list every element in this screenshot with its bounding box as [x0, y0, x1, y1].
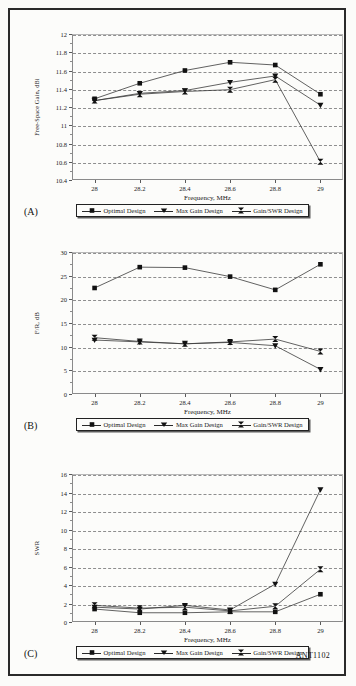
- x-axis-title: Frequency, MHz: [72, 194, 343, 202]
- legend-label: Max Gain Design: [176, 421, 223, 428]
- plot-c: SWR02468101214162828.228.428.628.829Freq…: [10, 454, 348, 676]
- x-tick-mark: [140, 394, 141, 397]
- x-tick-mark: [275, 394, 276, 397]
- legend-marker-triangle-down-icon: [154, 422, 173, 428]
- x-tick-label: 28: [91, 185, 98, 192]
- legend-marker-triangle-down-icon: [154, 650, 173, 656]
- data-point-marker: [137, 265, 142, 270]
- x-axis-title: Frequency, MHz: [72, 408, 343, 416]
- legend-label: Optimal Design: [104, 649, 146, 656]
- x-tick-mark: [185, 394, 186, 397]
- data-point-marker: [273, 63, 278, 68]
- x-tick-mark: [185, 180, 186, 183]
- x-tick-label: 28.4: [179, 399, 190, 406]
- series-line: [95, 490, 321, 610]
- x-tick-mark: [140, 180, 141, 183]
- legend-item[interactable]: Max Gain Design: [154, 649, 222, 656]
- legend-label: Gain/SWR Design: [253, 421, 302, 428]
- series-line: [95, 80, 321, 162]
- legend-marker-square-icon: [82, 422, 101, 428]
- data-point-marker: [317, 566, 323, 572]
- series-line: [95, 264, 321, 290]
- x-tick-mark: [185, 622, 186, 625]
- plot-b: F/R, dB0510152025302828.228.428.628.829F…: [10, 232, 348, 450]
- y-tick-label: 15: [61, 320, 68, 327]
- y-tick-label: 30: [61, 249, 68, 256]
- legend-marker-bowtie-icon: [232, 208, 251, 214]
- data-point-marker: [317, 348, 323, 354]
- data-point-marker: [137, 81, 142, 86]
- x-tick-mark: [230, 180, 231, 183]
- legend-item[interactable]: Max Gain Design: [154, 207, 222, 214]
- legend-item[interactable]: Optimal Design: [82, 207, 145, 214]
- legend-marker-triangle-down-icon: [154, 208, 173, 214]
- y-axis-title: Free-Space Gain, dBi: [33, 78, 40, 135]
- legend-item[interactable]: Optimal Design: [82, 421, 145, 428]
- data-point-marker: [183, 68, 188, 73]
- data-point-marker: [318, 592, 323, 597]
- legend-marker-bowtie-icon: [232, 650, 251, 656]
- y-tick-label: 14: [61, 489, 68, 496]
- x-tick-mark: [320, 394, 321, 397]
- data-point-marker: [273, 288, 278, 293]
- plot-a: Free-Space Gain, dBi10.410.610.81111.211…: [10, 12, 348, 230]
- series-line: [95, 338, 321, 352]
- legend-b[interactable]: Optimal DesignMax Gain DesignGain/SWR De…: [76, 418, 309, 431]
- figure-credit: ANT1102: [296, 651, 330, 660]
- y-tick-label: 16: [61, 471, 68, 478]
- data-point-marker: [183, 265, 188, 270]
- legend-item[interactable]: Gain/SWR Design: [232, 421, 303, 428]
- legend-item[interactable]: Max Gain Design: [154, 421, 222, 428]
- legend-item[interactable]: Optimal Design: [82, 649, 145, 656]
- y-tick-label: 25: [61, 272, 68, 279]
- data-point-marker: [317, 159, 323, 165]
- chart-panel-a: Free-Space Gain, dBi10.410.610.81111.211…: [10, 12, 348, 230]
- series-layer: [72, 252, 343, 394]
- legend-label: Gain/SWR Design: [253, 207, 302, 214]
- x-tick-label: 28.2: [134, 185, 145, 192]
- x-tick-mark: [320, 180, 321, 183]
- x-tick-mark: [230, 622, 231, 625]
- series-line: [95, 569, 321, 611]
- y-tick-label: 8: [64, 545, 67, 552]
- y-tick-label: 12: [61, 31, 68, 38]
- x-tick-label: 28.8: [270, 185, 281, 192]
- y-tick-label: 11.8: [56, 49, 67, 56]
- legend-item[interactable]: Gain/SWR Design: [232, 649, 303, 656]
- data-point-marker: [272, 582, 278, 587]
- legend-label: Optimal Design: [104, 207, 146, 214]
- legend-label: Optimal Design: [104, 421, 146, 428]
- y-tick-mark: [69, 394, 72, 395]
- x-tick-mark: [320, 622, 321, 625]
- figure-page: Free-Space Gain, dBi10.410.610.81111.211…: [0, 0, 356, 686]
- panel-label-b: (B): [24, 420, 37, 431]
- y-axis-title: F/R, dB: [33, 312, 40, 334]
- y-tick-mark: [69, 622, 72, 623]
- data-point-marker: [317, 487, 323, 492]
- x-tick-label: 28.6: [224, 399, 235, 406]
- data-point-marker: [318, 262, 323, 267]
- legend-marker-bowtie-icon: [232, 422, 251, 428]
- x-tick-label: 28.6: [224, 185, 235, 192]
- legend-c[interactable]: Optimal DesignMax Gain DesignGain/SWR De…: [76, 646, 309, 659]
- y-tick-label: 11.6: [56, 67, 67, 74]
- x-tick-label: 28: [91, 627, 98, 634]
- y-tick-label: 10.4: [56, 177, 67, 184]
- legend-item[interactable]: Gain/SWR Design: [232, 207, 303, 214]
- y-tick-label: 11.2: [56, 104, 67, 111]
- data-point-marker: [228, 60, 233, 65]
- y-tick-label: 0: [64, 391, 67, 398]
- x-tick-label: 28.8: [270, 399, 281, 406]
- data-point-marker: [228, 274, 233, 279]
- chart-panel-c: SWR02468101214162828.228.428.628.829Freq…: [10, 454, 348, 676]
- y-tick-label: 4: [64, 582, 67, 589]
- chart-panel-b: F/R, dB0510152025302828.228.428.628.829F…: [10, 232, 348, 450]
- y-tick-label: 5: [64, 367, 67, 374]
- y-tick-label: 10.8: [56, 140, 67, 147]
- y-tick-label: 20: [61, 296, 68, 303]
- series-layer: [72, 474, 343, 622]
- series-line: [95, 340, 321, 369]
- legend-a[interactable]: Optimal DesignMax Gain DesignGain/SWR De…: [76, 204, 309, 217]
- y-tick-label: 12: [61, 508, 68, 515]
- x-tick-mark: [275, 622, 276, 625]
